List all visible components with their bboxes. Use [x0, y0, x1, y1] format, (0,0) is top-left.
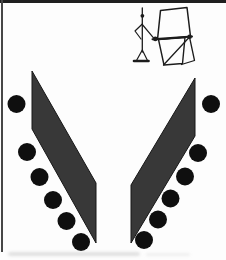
- person-tilting-board-on-stand-icon-figure-base-legs: [137, 50, 148, 61]
- left-row-dot: [72, 233, 90, 251]
- person-tilting-board-on-stand-icon-board-upper-panel: [158, 8, 191, 40]
- scan-smudge: [146, 253, 190, 256]
- right-row-dot: [202, 95, 220, 113]
- person-tilting-board-on-stand-icon-figure-right-arm-to-board: [142, 25, 153, 38]
- right-row-dot: [189, 144, 207, 162]
- left-row-dot: [18, 143, 36, 161]
- scanned-figure-frame: [0, 0, 226, 260]
- person-tilting-board-on-stand-icon-figure-left-arm-akimbo: [135, 24, 142, 39]
- diagram-canvas: [0, 0, 226, 260]
- scan-smudge: [8, 252, 140, 256]
- person-tilting-board-on-stand-icon-board-lower-panel: [159, 38, 186, 66]
- left-row-dot: [8, 95, 26, 113]
- person-tilting-board-on-stand-icon-figure-head: [141, 14, 145, 18]
- person-tilting-board-on-stand-icon-board-support-legs: [164, 37, 195, 65]
- left-row-dot: [31, 168, 49, 186]
- person-tilting-board-on-stand-icon-board-left-pivot: [153, 37, 158, 42]
- right-row-dot: [176, 168, 194, 186]
- left-row-dot: [44, 191, 62, 209]
- right-row-dot: [135, 231, 153, 249]
- right-row-dot: [162, 190, 180, 208]
- left-row-dot: [58, 212, 76, 230]
- right-row-dot: [149, 211, 167, 229]
- person-tilting-board-on-stand-icon-board-right-pivot: [187, 35, 192, 40]
